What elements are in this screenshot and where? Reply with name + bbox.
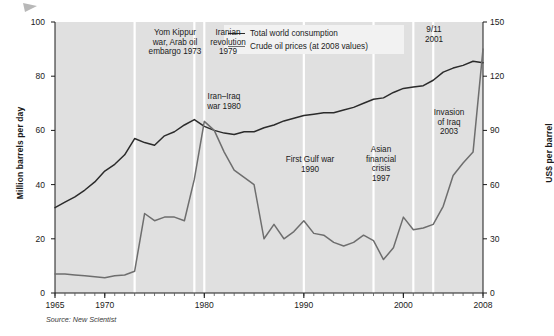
legend-label-price: Crude oil prices (at 2008 values) <box>250 42 368 51</box>
x-axis-tick: 2000 <box>383 300 423 310</box>
annotation-invasion-iraq: Invasion of Iraq 2003 <box>423 108 475 137</box>
x-axis-tick: 1990 <box>284 300 324 310</box>
y-axis-right-tick: 30 <box>490 234 520 244</box>
x-axis-tick: 1965 <box>35 300 75 310</box>
y-axis-left-tick: 0 <box>15 288 45 298</box>
y-axis-right-tick: 60 <box>490 180 520 190</box>
annotation-nine-eleven: 9/11 2001 <box>412 25 456 44</box>
legend-label-consumption: Total world consumption <box>250 29 338 38</box>
x-axis-tick: 1980 <box>184 300 224 310</box>
y-axis-left-tick: 80 <box>15 71 45 81</box>
annotation-iran-iraq: Iran–Iraq war 1980 <box>196 92 252 111</box>
annotation-asian-crisis: Asian financial crisis 1997 <box>355 145 407 183</box>
y-axis-right-tick: 150 <box>490 17 520 27</box>
y-axis-left-tick: 40 <box>15 180 45 190</box>
y-axis-left-tick: 20 <box>15 234 45 244</box>
y-axis-left-tick: 60 <box>15 125 45 135</box>
y-axis-right-tick: 120 <box>490 71 520 81</box>
y-axis-right-tick: 90 <box>490 125 520 135</box>
annotation-iranian-rev: Iranian revolution 1979 <box>199 28 257 57</box>
y-axis-left-tick: 100 <box>15 17 45 27</box>
y-axis-left-title: Million barrels per day <box>15 93 25 213</box>
source-note: Source: New Scientist <box>46 315 116 324</box>
annotation-first-gulf: First Gulf war 1990 <box>274 155 346 174</box>
x-axis-tick: 2008 <box>463 300 503 310</box>
y-axis-right-title: US$ per barrel <box>544 93 554 213</box>
y-axis-right-tick: 0 <box>490 288 520 298</box>
x-axis-tick: 1970 <box>85 300 125 310</box>
